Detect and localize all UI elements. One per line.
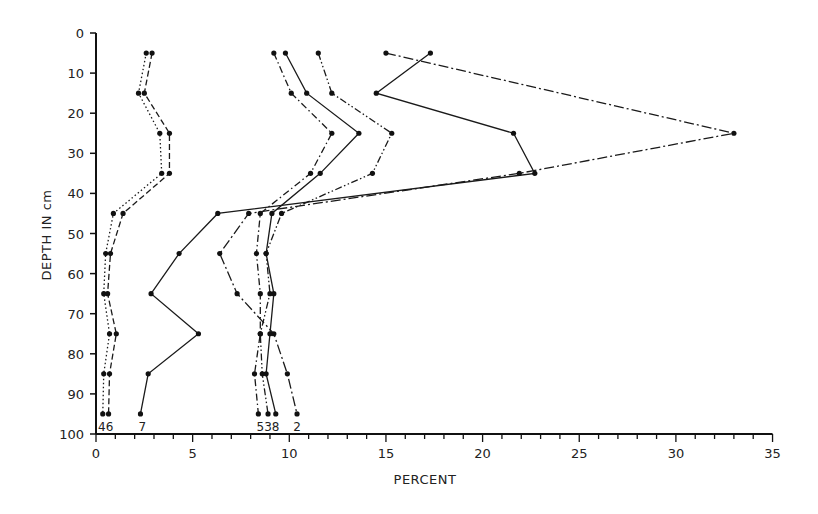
data-point: [111, 211, 116, 216]
data-point: [120, 211, 125, 216]
y-tick-label: 10: [67, 66, 84, 81]
data-point: [142, 91, 147, 96]
data-point: [370, 171, 375, 176]
series-8: [264, 50, 362, 416]
data-point: [289, 91, 294, 96]
data-point: [108, 251, 113, 256]
axes: 010203040506070809010005101520253035: [59, 26, 781, 461]
series-6: [105, 50, 172, 416]
y-tick-label: 40: [67, 186, 84, 201]
y-tick-label: 60: [67, 267, 84, 282]
data-point: [215, 211, 220, 216]
data-point: [258, 291, 263, 296]
data-point: [329, 131, 334, 136]
series-line: [255, 53, 332, 414]
data-point: [308, 171, 313, 176]
data-point: [264, 371, 269, 376]
depth-profile-chart: 010203040506070809010005101520253035 467…: [0, 0, 818, 514]
data-point: [273, 411, 278, 416]
series-id-label: 538: [257, 420, 280, 434]
series-line: [220, 53, 734, 414]
series-3: [258, 50, 395, 416]
series-line: [108, 53, 170, 414]
data-point: [389, 131, 394, 136]
series-layer: [100, 50, 736, 416]
x-axis-title: PERCENT: [394, 472, 457, 487]
data-point: [157, 131, 162, 136]
series-line: [140, 53, 534, 414]
data-point: [159, 171, 164, 176]
data-point: [138, 411, 143, 416]
data-point: [383, 50, 388, 55]
data-point: [374, 91, 379, 96]
y-tick-label: 20: [67, 106, 84, 121]
x-tick-label: 30: [668, 446, 685, 461]
data-point: [271, 291, 276, 296]
series-2: [217, 50, 736, 416]
x-tick-label: 20: [474, 446, 491, 461]
data-point: [532, 171, 537, 176]
data-point: [149, 50, 154, 55]
series-labels: 4675382: [98, 420, 301, 434]
data-point: [177, 251, 182, 256]
y-tick-label: 70: [67, 307, 84, 322]
data-point: [294, 411, 299, 416]
data-point: [107, 331, 112, 336]
data-point: [254, 251, 259, 256]
data-point: [100, 411, 105, 416]
data-point: [264, 251, 269, 256]
y-tick-label: 80: [67, 347, 84, 362]
data-point: [256, 411, 261, 416]
data-point: [114, 331, 119, 336]
x-tick-label: 0: [92, 446, 100, 461]
data-point: [316, 50, 321, 55]
y-tick-label: 50: [67, 227, 84, 242]
y-tick-label: 0: [76, 26, 84, 41]
data-point: [252, 371, 257, 376]
data-point: [304, 91, 309, 96]
data-point: [285, 371, 290, 376]
y-tick-label: 100: [59, 427, 84, 442]
data-point: [167, 131, 172, 136]
y-tick-label: 30: [67, 146, 84, 161]
y-axis-title: DEPTH IN cm: [39, 190, 54, 281]
data-point: [271, 50, 276, 55]
x-tick-label: 15: [378, 446, 395, 461]
data-point: [279, 211, 284, 216]
data-point: [318, 171, 323, 176]
data-point: [258, 331, 263, 336]
data-point: [105, 291, 110, 296]
data-point: [146, 371, 151, 376]
series-id-label: 2: [293, 420, 301, 434]
data-point: [283, 50, 288, 55]
data-point: [144, 50, 149, 55]
data-point: [329, 91, 334, 96]
series-id-label: 7: [139, 420, 147, 434]
x-tick-label: 5: [189, 446, 197, 461]
x-tick-label: 25: [571, 446, 588, 461]
data-point: [265, 411, 270, 416]
data-point: [106, 411, 111, 416]
data-point: [107, 371, 112, 376]
data-point: [269, 211, 274, 216]
data-point: [271, 331, 276, 336]
data-point: [148, 291, 153, 296]
data-point: [731, 131, 736, 136]
data-point: [356, 131, 361, 136]
data-point: [246, 211, 251, 216]
x-tick-label: 10: [281, 446, 298, 461]
data-point: [428, 50, 433, 55]
data-point: [167, 171, 172, 176]
data-point: [101, 371, 106, 376]
series-line: [266, 53, 359, 414]
data-point: [235, 291, 240, 296]
data-point: [196, 331, 201, 336]
data-point: [103, 251, 108, 256]
x-tick-label: 35: [764, 446, 781, 461]
series-7: [138, 50, 538, 416]
data-point: [217, 251, 222, 256]
data-point: [136, 91, 141, 96]
y-tick-label: 90: [67, 387, 84, 402]
series-id-label: 46: [98, 420, 113, 434]
data-point: [517, 171, 522, 176]
